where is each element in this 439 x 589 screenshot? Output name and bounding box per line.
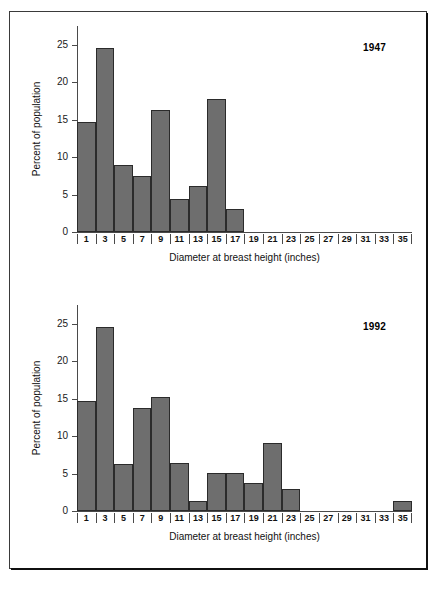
x-tick-label: 5 bbox=[114, 512, 133, 526]
bar-slot bbox=[207, 26, 226, 232]
bar bbox=[96, 327, 115, 511]
y-tick: 15 bbox=[72, 120, 77, 121]
bar-slot bbox=[338, 26, 357, 232]
bar-slot bbox=[338, 305, 357, 511]
y-tick: 25 bbox=[72, 45, 77, 46]
bar bbox=[244, 483, 263, 511]
y-tick-label: 15 bbox=[57, 392, 68, 405]
x-tick-label: 21 bbox=[263, 233, 282, 247]
bar-slot bbox=[263, 305, 282, 511]
bar bbox=[133, 408, 152, 511]
bar-slot bbox=[170, 305, 189, 511]
bar-slot bbox=[300, 305, 319, 511]
bar-slot bbox=[226, 26, 245, 232]
y-tick: 5 bbox=[72, 474, 77, 475]
bar bbox=[207, 473, 226, 511]
y-tick-label: 15 bbox=[57, 113, 68, 126]
x-tick-label: 33 bbox=[375, 512, 394, 526]
bar-slot bbox=[319, 305, 338, 511]
bar bbox=[170, 199, 189, 232]
bar-slot bbox=[375, 305, 394, 511]
bar bbox=[77, 401, 96, 511]
x-tick-label: 15 bbox=[207, 512, 226, 526]
bar-slot bbox=[375, 26, 394, 232]
bar-series-1947 bbox=[77, 26, 412, 232]
bar bbox=[114, 165, 133, 232]
bar-slot bbox=[96, 26, 115, 232]
bar bbox=[151, 110, 170, 232]
x-tick-label: 15 bbox=[207, 233, 226, 247]
bar-slot bbox=[207, 305, 226, 511]
y-tick: 20 bbox=[72, 361, 77, 362]
bar bbox=[226, 473, 245, 511]
y-tick-label: 25 bbox=[57, 317, 68, 330]
x-tick-label: 19 bbox=[244, 512, 263, 526]
bar-slot bbox=[189, 26, 208, 232]
x-tick-label: 33 bbox=[375, 233, 394, 247]
y-tick-label: 0 bbox=[62, 504, 68, 517]
x-tick-label: 29 bbox=[338, 512, 357, 526]
bar-slot bbox=[319, 26, 338, 232]
x-tick-label: 23 bbox=[282, 512, 301, 526]
chart-panel-1947: 1947 Percent of population 0510152025 13… bbox=[10, 12, 428, 291]
x-tick-label: 23 bbox=[282, 233, 301, 247]
x-tick-label: 27 bbox=[319, 512, 338, 526]
bar-slot bbox=[244, 26, 263, 232]
y-tick-label: 20 bbox=[57, 354, 68, 367]
y-axis-title-1992: Percent of population bbox=[30, 305, 44, 511]
y-tick: 10 bbox=[72, 157, 77, 158]
plot-area-1992: 0510152025 13579111315171921232527293133… bbox=[77, 305, 412, 511]
x-tick-label: 35 bbox=[393, 233, 412, 247]
bar-slot bbox=[282, 26, 301, 232]
x-tick-label: 29 bbox=[338, 233, 357, 247]
x-axis-title-1992: Diameter at breast height (inches) bbox=[77, 531, 412, 542]
bar bbox=[393, 501, 412, 511]
x-tick-label: 25 bbox=[300, 233, 319, 247]
y-tick-label: 0 bbox=[62, 225, 68, 238]
x-tick-label: 35 bbox=[393, 512, 412, 526]
bar bbox=[133, 176, 152, 232]
x-tick-label: 5 bbox=[114, 233, 133, 247]
x-tick-label: 7 bbox=[133, 512, 152, 526]
x-tick-label: 7 bbox=[133, 233, 152, 247]
figure-frame: 1947 Percent of population 0510152025 13… bbox=[9, 11, 427, 569]
y-tick: 15 bbox=[72, 399, 77, 400]
x-tick-label: 11 bbox=[170, 512, 189, 526]
y-tick: 25 bbox=[72, 324, 77, 325]
bar-slot bbox=[393, 305, 412, 511]
bar bbox=[282, 489, 301, 511]
bar-slot bbox=[226, 305, 245, 511]
x-tick-label: 11 bbox=[170, 233, 189, 247]
bar-slot bbox=[96, 305, 115, 511]
bar bbox=[151, 397, 170, 511]
bar-slot bbox=[244, 305, 263, 511]
bar-slot bbox=[263, 26, 282, 232]
y-axis-title-1947: Percent of population bbox=[30, 26, 44, 232]
bar-slot bbox=[189, 305, 208, 511]
bar bbox=[263, 443, 282, 511]
x-tick-label: 17 bbox=[226, 233, 245, 247]
bar-slot bbox=[282, 305, 301, 511]
x-tick-label: 3 bbox=[96, 233, 115, 247]
y-tick: 5 bbox=[72, 195, 77, 196]
x-tick-label: 13 bbox=[189, 512, 208, 526]
y-tick-label: 5 bbox=[62, 188, 68, 201]
y-tick-label: 5 bbox=[62, 467, 68, 480]
bar-slot bbox=[133, 26, 152, 232]
x-tick-label-group-1947: 1357911131517192123252729313335 bbox=[77, 233, 412, 247]
bar bbox=[207, 99, 226, 232]
bar bbox=[189, 501, 208, 511]
x-tick-label: 31 bbox=[356, 233, 375, 247]
bar-slot bbox=[300, 26, 319, 232]
chart-panel-1992: 1992 Percent of population 0510152025 13… bbox=[10, 291, 428, 570]
y-tick-label: 20 bbox=[57, 75, 68, 88]
bar-slot bbox=[114, 305, 133, 511]
y-tick: 20 bbox=[72, 82, 77, 83]
bar-slot bbox=[356, 305, 375, 511]
x-tick-label: 27 bbox=[319, 233, 338, 247]
bar-slot bbox=[393, 26, 412, 232]
x-tick-label: 21 bbox=[263, 512, 282, 526]
x-tick-label-group-1992: 1357911131517192123252729313335 bbox=[77, 512, 412, 526]
bar-slot bbox=[77, 26, 96, 232]
bar-slot bbox=[114, 26, 133, 232]
